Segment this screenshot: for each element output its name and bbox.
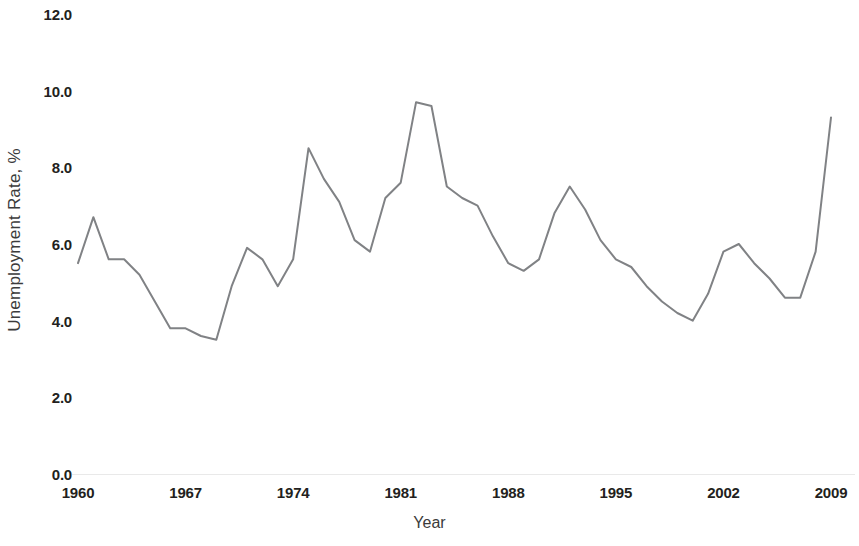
x-tick-label: 1967 [169, 484, 202, 501]
x-axis-line [72, 474, 855, 475]
x-tick-label: 2009 [815, 484, 848, 501]
x-tick-label: 2002 [707, 484, 740, 501]
x-tick-label: 1974 [277, 484, 310, 501]
x-tick-label: 1988 [492, 484, 525, 501]
data-series-line [78, 102, 831, 340]
x-tick-label: 1960 [62, 484, 95, 501]
unemployment-rate-line-chart: Unemployment Rate, % 0.02.04.06.08.010.0… [0, 0, 859, 546]
plot-area [0, 0, 859, 546]
x-axis-label: Year [0, 514, 859, 532]
x-tick-label: 1981 [384, 484, 417, 501]
x-tick-label: 1995 [600, 484, 633, 501]
